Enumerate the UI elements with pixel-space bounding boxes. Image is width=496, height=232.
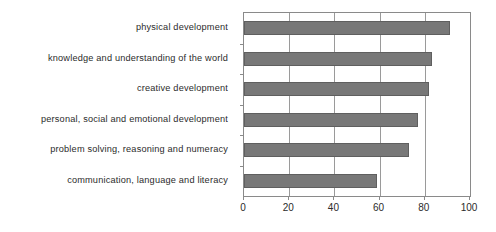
y-axis-tick: [240, 166, 244, 167]
bar: [244, 21, 450, 35]
y-axis-tick: [240, 74, 244, 75]
gridline: [289, 13, 290, 196]
x-axis-tick: [379, 196, 380, 200]
category-label: creative development: [0, 83, 228, 93]
category-label: problem solving, reasoning and numeracy: [0, 144, 228, 154]
x-axis-tick: [288, 196, 289, 200]
bar: [244, 174, 377, 188]
gridline: [334, 13, 335, 196]
y-axis-tick: [240, 135, 244, 136]
x-axis-tick-label: 40: [328, 202, 339, 213]
x-axis-tick-label: 80: [418, 202, 429, 213]
category-label: communication, language and literacy: [0, 175, 228, 185]
y-axis-tick: [240, 44, 244, 45]
x-axis-tick-label: 20: [283, 202, 294, 213]
x-axis-tick: [243, 196, 244, 200]
bar: [244, 52, 432, 66]
category-axis-labels: physical development knowledge and under…: [0, 12, 236, 195]
x-axis-tick-label: 100: [461, 202, 478, 213]
bar-chart: physical development knowledge and under…: [0, 0, 496, 232]
x-axis-tick: [333, 196, 334, 200]
category-label: physical development: [0, 22, 228, 32]
x-axis-tick: [424, 196, 425, 200]
x-axis-tick: [469, 196, 470, 200]
category-label: personal, social and emotional developme…: [0, 114, 228, 124]
y-axis-tick: [240, 105, 244, 106]
bar: [244, 82, 429, 96]
gridline: [380, 13, 381, 196]
category-label: knowledge and understanding of the world: [0, 53, 228, 63]
bar: [244, 143, 409, 157]
gridline: [425, 13, 426, 196]
plot-area: [243, 12, 471, 197]
x-axis-tick-label: 60: [373, 202, 384, 213]
x-axis: 020406080100: [243, 196, 470, 226]
bar: [244, 113, 418, 127]
x-axis-tick-label: 0: [240, 202, 246, 213]
